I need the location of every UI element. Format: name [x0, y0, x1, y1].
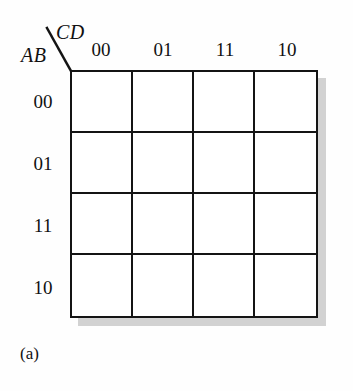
kmap-cell[interactable]	[194, 194, 255, 255]
kmap-cell[interactable]	[133, 194, 194, 255]
row-header-3: 10	[22, 256, 64, 318]
kmap-cell[interactable]	[72, 255, 133, 316]
kmap-cell[interactable]	[194, 72, 255, 133]
kmap-cell[interactable]	[194, 255, 255, 316]
kmap-cell[interactable]	[255, 133, 316, 194]
column-header-2: 11	[194, 40, 256, 59]
row-header-2: 11	[22, 194, 64, 256]
kmap-cell[interactable]	[72, 72, 133, 133]
kmap-grid	[70, 70, 318, 318]
kmap-cell[interactable]	[72, 133, 133, 194]
kmap-cell[interactable]	[133, 255, 194, 316]
kmap-cell[interactable]	[194, 133, 255, 194]
column-header-0: 00	[70, 40, 132, 59]
kmap-cell[interactable]	[133, 133, 194, 194]
kmap-cell[interactable]	[255, 72, 316, 133]
figure-caption: (a)	[20, 344, 39, 364]
kmap-cell[interactable]	[133, 72, 194, 133]
row-header-0: 00	[22, 70, 64, 132]
kmap-cell[interactable]	[255, 194, 316, 255]
column-header-3: 10	[256, 40, 318, 59]
column-header-1: 01	[132, 40, 194, 59]
kmap-cell[interactable]	[255, 255, 316, 316]
row-header-1: 01	[22, 132, 64, 194]
figure-container: CD AB 00 01 11 10 00 01 11 10 (a)	[0, 0, 353, 391]
kmap-cell[interactable]	[72, 194, 133, 255]
